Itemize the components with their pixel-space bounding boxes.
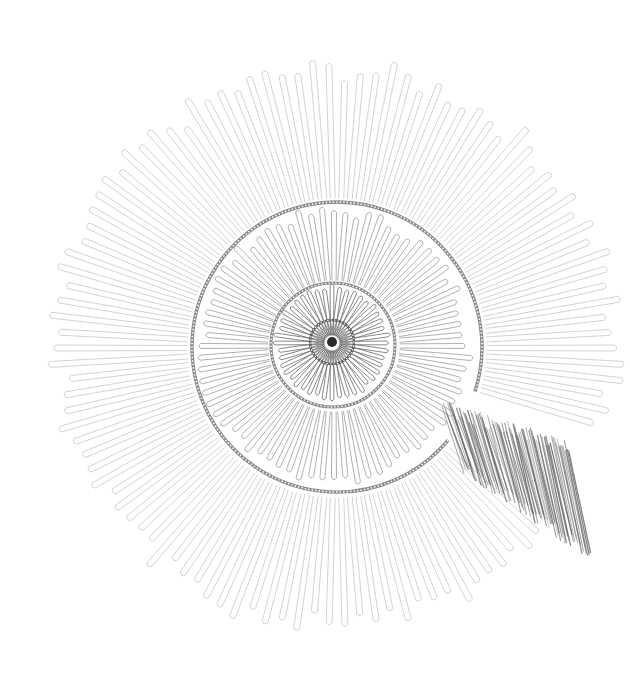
petal-loop — [381, 490, 421, 601]
petal-loop — [400, 333, 462, 343]
petal-loop — [340, 341, 388, 345]
petal-loop — [420, 470, 492, 572]
petal-loop — [339, 498, 348, 626]
petal-loop — [320, 207, 331, 280]
petal-loop — [200, 361, 271, 384]
petal-loop — [400, 344, 465, 349]
petal-loop — [221, 266, 281, 310]
petal-loop — [50, 312, 189, 333]
petal-loop — [294, 496, 318, 630]
spiral-rings — [192, 202, 482, 492]
petal-loop — [349, 409, 371, 478]
outer-whorl-petals — [48, 60, 624, 630]
petal-loop — [206, 333, 268, 343]
petal-loop — [471, 220, 594, 284]
petal-loop — [487, 345, 617, 351]
petal-loop — [397, 483, 451, 593]
petal-loop — [483, 380, 609, 414]
middle-whorl-petals — [198, 207, 473, 484]
petal-loop — [262, 492, 301, 623]
petal-loop — [295, 73, 318, 199]
petal-loop — [412, 108, 483, 221]
petal-loop — [339, 81, 348, 198]
petal-loop — [296, 210, 319, 283]
petal-loop — [221, 382, 281, 426]
third-ring — [192, 202, 482, 492]
petal-loop — [420, 121, 493, 225]
petal-loop — [73, 396, 196, 444]
petal-loop — [356, 73, 379, 200]
petal-loop — [262, 71, 301, 203]
petal-loop — [330, 351, 334, 401]
petal-loop — [338, 212, 348, 280]
petal-loop — [332, 412, 337, 480]
petal-loop — [204, 321, 270, 337]
petal-loop — [96, 192, 212, 269]
petal-loop — [373, 492, 411, 620]
petal-loop — [395, 300, 456, 326]
petal-loop — [338, 412, 348, 478]
petal-loop — [82, 238, 200, 292]
petal-loop — [349, 212, 372, 282]
petal-loop — [279, 495, 309, 621]
petal-loop — [310, 60, 327, 198]
core-dot — [327, 337, 337, 347]
petal-loop — [309, 411, 325, 478]
petal-loop — [139, 448, 228, 530]
petal-loop — [66, 283, 191, 317]
petal-loop — [235, 91, 285, 209]
petal-loop — [204, 480, 270, 599]
petal-loop — [330, 284, 334, 335]
petal-loop — [296, 409, 319, 480]
drawing-canvas: Graphite sketch of a spiral composed of … — [0, 0, 630, 674]
petal-loop — [273, 341, 324, 345]
hatch-stroke — [473, 424, 495, 493]
petal-loop — [320, 412, 330, 480]
petal-loop — [347, 497, 363, 615]
petal-loop — [120, 170, 223, 255]
petal-loop — [311, 497, 326, 613]
petal-loop — [400, 350, 473, 361]
petal-loop — [250, 490, 293, 609]
shaded-hatching — [442, 403, 591, 556]
petal-loop — [356, 496, 379, 621]
petal-loop — [172, 465, 247, 560]
spiral-core — [327, 337, 337, 347]
hatch-stroke — [446, 413, 468, 470]
petal-loop — [399, 355, 467, 371]
petal-loop — [211, 300, 273, 326]
petal-loop — [332, 210, 337, 280]
petal-loop — [198, 350, 268, 361]
petal-loop — [364, 495, 393, 611]
petal-loop — [486, 363, 623, 384]
petal-loop — [309, 214, 325, 281]
petal-loop — [48, 354, 187, 367]
petal-loop — [387, 265, 448, 310]
petal-loop — [373, 74, 412, 203]
petal-loop — [397, 102, 451, 213]
petal-loop — [483, 283, 606, 317]
petal-loop — [474, 239, 589, 292]
petal-loop — [364, 62, 397, 201]
petal-loop — [347, 74, 363, 199]
petal-loop — [65, 380, 192, 414]
petal-loop — [83, 404, 200, 457]
petal-loop — [185, 127, 255, 226]
petal-loop — [288, 224, 313, 284]
petal-loop — [149, 454, 234, 541]
petal-loop — [466, 213, 574, 277]
petal-loop — [487, 354, 624, 367]
petal-loop — [326, 64, 335, 199]
petal-loop — [199, 344, 268, 349]
petal-loop — [89, 207, 207, 277]
petal-loop — [127, 441, 223, 520]
hatch-stroke — [567, 449, 589, 555]
petal-loop — [446, 167, 534, 249]
petal-loop — [326, 498, 335, 625]
petal-loop — [279, 75, 310, 202]
petal-loop — [54, 345, 187, 351]
petal-loop — [115, 434, 217, 510]
petal-loop — [389, 84, 442, 209]
petal-loop — [205, 100, 270, 217]
spiral-shell-drawing — [0, 0, 630, 674]
